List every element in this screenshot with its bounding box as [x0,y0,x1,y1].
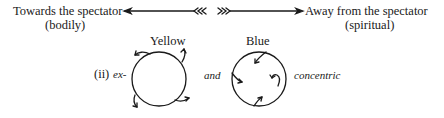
blue-circle-icon [232,52,286,106]
yellow-circle-icon [132,49,189,107]
left-arrow-icon [124,8,206,14]
right-arrow-icon [218,8,303,14]
diagram-graphics [0,0,444,118]
